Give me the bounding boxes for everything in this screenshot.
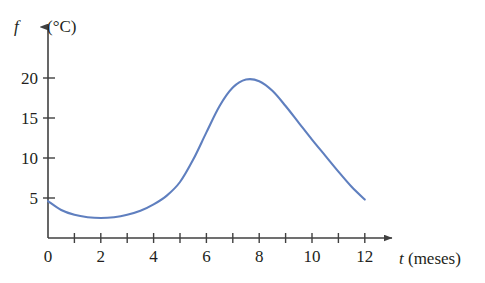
- y-axis-ticks: [43, 78, 55, 198]
- temperature-curve-figure: 20 15 10 5 0 2 4 6 8 10 12 f (°C) t (mes…: [0, 0, 485, 283]
- y-tick-label-5: 5: [6, 190, 38, 207]
- y-tick-label-10: 10: [6, 150, 38, 167]
- temperature-curve: [48, 79, 365, 218]
- x-tick-label-2: 2: [89, 248, 113, 265]
- x-axis-unit-label: (meses): [408, 249, 461, 268]
- y-axis-unit-label: (°C): [47, 18, 76, 35]
- y-tick-label-15: 15: [6, 110, 38, 127]
- x-tick-label-0: 0: [36, 248, 60, 265]
- x-tick-label-12: 12: [353, 248, 377, 265]
- x-axis-label: t (meses): [399, 250, 461, 267]
- y-tick-label-20: 20: [6, 70, 38, 87]
- plot-canvas: [0, 0, 485, 283]
- x-tick-label-8: 8: [247, 248, 271, 265]
- x-tick-label-10: 10: [300, 248, 324, 265]
- x-tick-label-4: 4: [142, 248, 166, 265]
- y-axis-symbol: f: [14, 18, 19, 35]
- x-tick-label-6: 6: [194, 248, 218, 265]
